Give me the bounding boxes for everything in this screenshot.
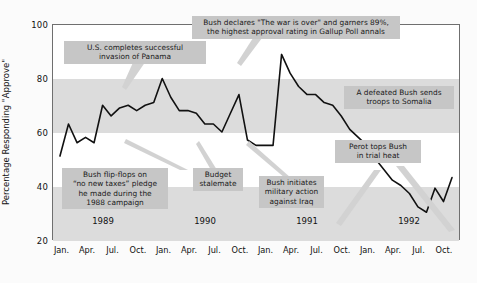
annotation-iraq-line1: Bush initiates xyxy=(263,178,320,187)
annotation-perot-line2: in trial heat xyxy=(339,151,417,160)
year-label-1992: 1992 xyxy=(398,216,420,226)
x-tick-9: Apr. xyxy=(283,245,299,255)
x-tick-2: Jul. xyxy=(106,245,118,255)
annotation-perot: Perot tops Bush in trial heat xyxy=(335,140,421,163)
year-label-1990: 1990 xyxy=(194,216,216,226)
y-tick-60: 60 xyxy=(37,128,48,138)
x-tick-3: Oct. xyxy=(130,245,147,255)
annotation-taxes-line1: Bush flip-flops on xyxy=(66,170,164,179)
x-tick-1: Apr. xyxy=(79,245,95,255)
x-tick-5: Apr. xyxy=(181,245,197,255)
approval-rating-chart: 100 80 60 40 20 Jan.Apr.Jul.Oct.Jan.Apr.… xyxy=(0,0,477,283)
y-tick-100: 100 xyxy=(31,20,48,30)
annotation-somalia-line2: troops to Somalia xyxy=(348,97,450,106)
x-tick-11: Oct. xyxy=(334,245,351,255)
annotation-perot-line1: Perot tops Bush xyxy=(339,142,417,151)
annotation-no-new-taxes: Bush flip-flops on “no new taxes” pledge… xyxy=(62,168,168,209)
y-tick-80: 80 xyxy=(37,74,48,84)
y-tick-40: 40 xyxy=(37,182,48,192)
annotation-somalia-line1: A defeated Bush sends xyxy=(348,88,450,97)
x-tick-7: Oct. xyxy=(232,245,249,255)
annotation-war-over-line1: Bush declares "The war is over" and garn… xyxy=(196,18,396,27)
annotation-budget-line2: stalemate xyxy=(197,179,239,188)
x-tick-8: Jan. xyxy=(258,245,273,255)
x-axis-year-labels: 1989 1990 1991 1992 xyxy=(52,229,460,241)
annotation-panama-line2: invasion of Panama xyxy=(68,52,202,61)
annotation-somalia: A defeated Bush sends troops to Somalia xyxy=(344,86,454,109)
annotation-panama: U.S. completes successful invasion of Pa… xyxy=(64,41,206,64)
x-tick-6: Jul. xyxy=(208,245,220,255)
annotation-war-over-line2: the highest approval rating in Gallup Po… xyxy=(196,27,396,36)
annotation-iraq: Bush initiates military action against I… xyxy=(259,176,324,208)
annotation-iraq-line2: military action xyxy=(263,187,320,196)
x-tick-10: Jul. xyxy=(310,245,322,255)
annotation-budget-line1: Budget xyxy=(197,170,239,179)
annotation-taxes-line4: 1988 campaign xyxy=(66,198,164,207)
annotation-iraq-line3: against Iraq xyxy=(263,197,320,206)
x-tick-15: Oct. xyxy=(436,245,453,255)
x-tick-4: Jan. xyxy=(156,245,171,255)
year-label-1989: 1989 xyxy=(92,216,114,226)
annotation-taxes-line3: he made during the xyxy=(66,189,164,198)
x-tick-14: Jul. xyxy=(412,245,424,255)
annotation-budget-stalemate: Budget stalemate xyxy=(193,168,243,191)
y-axis-title: Percentage Responding "Approve" xyxy=(1,59,11,205)
year-label-1991: 1991 xyxy=(296,216,318,226)
annotation-war-over: Bush declares "The war is over" and garn… xyxy=(192,16,400,39)
x-tick-13: Apr. xyxy=(385,245,401,255)
x-tick-0: Jan. xyxy=(54,245,69,255)
y-tick-20: 20 xyxy=(37,236,48,246)
annotation-taxes-line2: “no new taxes” pledge xyxy=(66,179,164,188)
x-tick-12: Jan. xyxy=(360,245,375,255)
annotation-panama-line1: U.S. completes successful xyxy=(68,43,202,52)
